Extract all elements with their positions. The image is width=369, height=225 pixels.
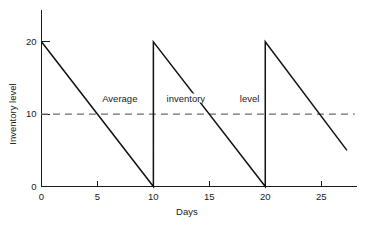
annotation-average: Average	[101, 93, 138, 103]
y-tick-label-0: 0	[12, 182, 37, 192]
inventory-level-chart: 0510152025 01020 Averageinventorylevel D…	[0, 0, 369, 225]
chart-plot-area	[0, 0, 369, 225]
inventory-sawtooth-line	[42, 42, 347, 187]
x-axis-title: Days	[176, 207, 198, 217]
annotation-level: level	[239, 93, 261, 103]
x-tick-label-5: 5	[95, 192, 100, 202]
y-axis-ticks	[42, 42, 50, 114]
x-tick-label-25: 25	[316, 192, 327, 202]
y-axis-title: Inventory level	[8, 84, 18, 145]
x-tick-label-20: 20	[260, 192, 271, 202]
y-tick-label-20: 20	[12, 37, 37, 47]
x-tick-label-15: 15	[204, 192, 215, 202]
x-tick-label-10: 10	[148, 192, 159, 202]
annotation-inventory: inventory	[166, 93, 207, 103]
x-tick-label-0: 0	[39, 192, 44, 202]
x-axis-ticks	[42, 181, 322, 187]
